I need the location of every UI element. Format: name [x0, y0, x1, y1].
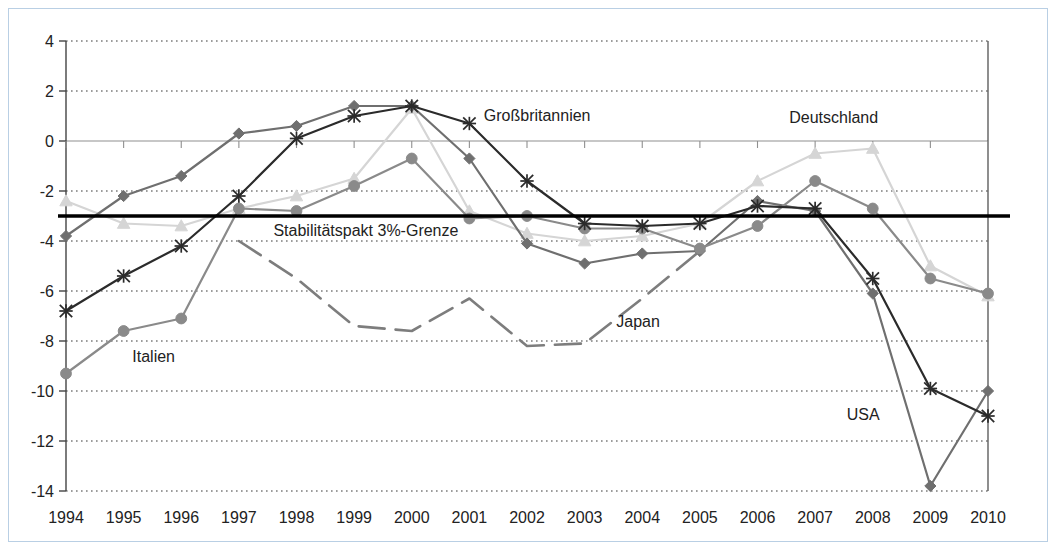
x-axis-tick-label: 2004 — [624, 509, 660, 526]
data-point-marker — [349, 181, 360, 192]
data-point-marker — [752, 221, 763, 232]
data-point-marker — [751, 199, 764, 212]
series-line — [66, 109, 988, 297]
data-point-marker — [578, 217, 591, 230]
y-axis-tick-label: -2 — [40, 183, 54, 200]
series-label-usa: USA — [847, 406, 880, 423]
data-point-marker — [924, 382, 937, 395]
series-label-japan: Japan — [616, 313, 660, 330]
series-japan — [239, 241, 700, 346]
data-point-marker — [751, 175, 763, 186]
y-axis-tick-label: 0 — [45, 133, 54, 150]
y-axis-tick-label: -14 — [31, 483, 54, 500]
x-axis-tick-label: 2008 — [855, 509, 891, 526]
data-point-marker — [694, 243, 705, 254]
data-point-marker — [636, 219, 649, 232]
data-point-marker — [291, 120, 302, 131]
data-point-marker — [406, 153, 417, 164]
data-point-marker — [982, 385, 993, 396]
x-axis-tick-label: 1994 — [48, 509, 84, 526]
x-axis-tick-label: 1995 — [106, 509, 142, 526]
y-axis-tick-label: -12 — [31, 433, 54, 450]
series-label-deutschland: Deutschland — [789, 109, 878, 126]
data-point-marker — [866, 272, 879, 285]
y-axis-tick-label: 2 — [45, 83, 54, 100]
data-point-marker — [176, 313, 187, 324]
data-point-marker — [61, 368, 72, 379]
series-deutschland — [60, 102, 994, 301]
data-point-marker — [233, 203, 244, 214]
data-point-marker — [579, 258, 590, 269]
chart-plot-area: 420-2-4-6-8-10-12-1419941995199619971998… — [0, 0, 1058, 557]
y-axis-tick-label: -10 — [31, 383, 54, 400]
x-axis-tick-label: 1999 — [336, 509, 372, 526]
data-point-marker — [290, 132, 303, 145]
data-point-marker — [925, 273, 936, 284]
x-axis-tick-label: 2010 — [970, 509, 1006, 526]
data-point-marker — [925, 480, 936, 491]
x-axis-tick-label: 1996 — [163, 509, 199, 526]
series-line — [66, 106, 988, 486]
data-point-marker — [867, 203, 878, 214]
y-axis-tick-label: -6 — [40, 283, 54, 300]
series-label-italien: Italien — [132, 348, 175, 365]
series-line — [239, 241, 700, 346]
x-axis-tick-label: 2007 — [797, 509, 833, 526]
data-point-marker — [981, 409, 994, 422]
y-axis-tick-label: 4 — [45, 33, 54, 50]
x-axis-tick-label: 2006 — [740, 509, 776, 526]
deficit-line-chart: 420-2-4-6-8-10-12-1419941995199619971998… — [0, 0, 1058, 557]
reference-line-label: Stabilitätspakt 3%-Grenze — [273, 222, 458, 239]
x-axis-tick-label: 2005 — [682, 509, 718, 526]
data-point-marker — [810, 176, 821, 187]
data-point-marker — [175, 239, 188, 252]
data-point-marker — [983, 288, 994, 299]
data-point-marker — [60, 195, 72, 206]
data-point-marker — [463, 117, 476, 130]
x-axis-tick-label: 2001 — [452, 509, 488, 526]
x-axis-tick-label: 1998 — [279, 509, 315, 526]
data-point-marker — [637, 248, 648, 259]
x-axis-tick-label: 2000 — [394, 509, 430, 526]
chart-page: 420-2-4-6-8-10-12-1419941995199619971998… — [0, 0, 1058, 557]
data-point-marker — [808, 202, 821, 215]
series-label-großbritannien: Großbritannien — [484, 107, 591, 124]
data-point-marker — [520, 174, 533, 187]
data-point-marker — [693, 217, 706, 230]
x-axis-tick-label: 2003 — [567, 509, 603, 526]
data-point-marker — [924, 260, 936, 271]
data-point-marker — [405, 99, 418, 112]
data-point-marker — [232, 189, 245, 202]
label-layer: DeutschlandGroßbritannienItalienUSAJapan… — [132, 107, 880, 423]
data-point-marker — [59, 304, 72, 317]
series-layer — [59, 99, 994, 491]
series-usa — [60, 100, 993, 491]
x-axis-tick-label: 1997 — [221, 509, 257, 526]
data-point-marker — [118, 326, 129, 337]
x-axis-tick-label: 2002 — [509, 509, 545, 526]
y-axis-tick-label: -4 — [40, 233, 54, 250]
x-axis-tick-label: 2009 — [913, 509, 949, 526]
data-point-marker — [347, 109, 360, 122]
data-point-marker — [117, 269, 130, 282]
y-axis-tick-label: -8 — [40, 333, 54, 350]
